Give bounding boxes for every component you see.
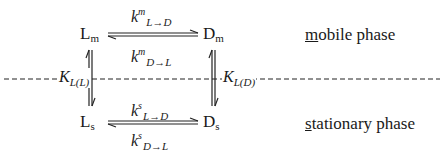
rate-stationary-L-to-D: ksL→D: [131, 100, 168, 122]
rate-sup: s: [138, 100, 142, 111]
species-sub: m: [215, 32, 224, 44]
phase-initial: s: [305, 114, 312, 133]
species-base: L: [80, 24, 90, 43]
phase-rest: tationary phase: [312, 114, 415, 133]
species-base: D: [203, 24, 215, 43]
right-vertical-arrows: [209, 50, 218, 106]
species-D-mobile: Dm: [203, 24, 224, 44]
rate-sup: m: [138, 6, 145, 17]
phase-rest: obile phase: [318, 25, 395, 44]
rate-mobile-L-to-D: kmL→D: [131, 6, 171, 28]
species-base: L: [80, 112, 90, 131]
keq-sub: L(L): [70, 76, 90, 88]
keq-base: K: [59, 68, 70, 85]
rate-sub: L→D: [146, 16, 171, 28]
keq-sub: L(D): [234, 76, 255, 88]
species-base: D: [203, 112, 215, 131]
rate-sub: L→D: [143, 110, 168, 122]
equilibrium-K-L-L: KL(L): [58, 68, 90, 88]
mobile-phase-label: mobile phase: [305, 25, 395, 45]
rate-sub: D→L: [146, 56, 171, 68]
mobile-equilibrium-arrows: [108, 30, 198, 39]
keq-base: K: [223, 68, 234, 85]
rate-sup: m: [138, 46, 145, 57]
rate-sub: D→L: [143, 140, 168, 152]
species-L-stationary: Ls: [80, 112, 95, 132]
species-D-stationary: Ds: [203, 112, 220, 132]
species-sub: s: [90, 120, 94, 132]
rate-sup: s: [138, 130, 142, 141]
species-sub: m: [90, 32, 99, 44]
rate-stationary-D-to-L: ksD→L: [131, 130, 168, 152]
phase-initial: m: [305, 25, 318, 44]
species-sub: s: [215, 120, 219, 132]
rate-mobile-D-to-L: kmD→L: [131, 46, 171, 68]
stationary-phase-label: stationary phase: [305, 114, 415, 134]
species-L-mobile: Lm: [80, 24, 99, 44]
equilibrium-K-L-D: KL(D): [222, 68, 256, 88]
